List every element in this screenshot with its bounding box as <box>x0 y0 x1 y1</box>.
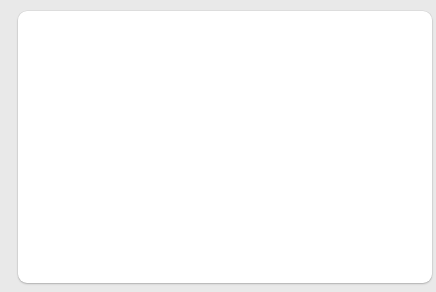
chart-root: 0246810121416182019291939194919591969197… <box>0 0 436 292</box>
figure-card <box>18 11 432 283</box>
